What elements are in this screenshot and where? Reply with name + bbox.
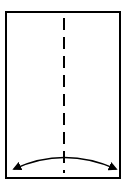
origami-diagram	[0, 0, 125, 191]
